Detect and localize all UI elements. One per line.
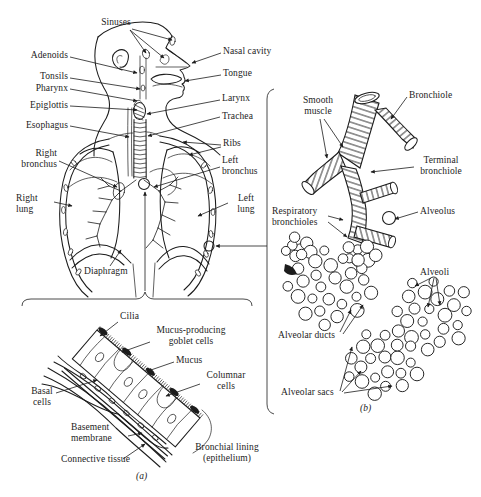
label-esophagus: Esophagus xyxy=(14,120,68,131)
label-basal-cells: Basal cells xyxy=(26,386,58,407)
label-alveolar-sacs: Alveolar sacs xyxy=(281,387,334,398)
label-nasal-cavity: Nasal cavity xyxy=(223,46,271,57)
label-basement-membrane: Basement membrane xyxy=(71,422,131,443)
lungs xyxy=(80,147,200,258)
label-left-lung: Left lung xyxy=(229,193,263,214)
rib-sections xyxy=(62,159,216,277)
label-pharynx: Pharynx xyxy=(18,83,68,94)
label-right-bronchus: Right bronchus xyxy=(11,148,57,169)
label-epiglottis: Epiglottis xyxy=(14,100,68,111)
tongue-shape xyxy=(151,74,181,83)
panel-a-tag: (a) xyxy=(136,471,147,482)
label-diaphragm: Diaphragm xyxy=(84,266,128,277)
leader-smooth-muscle-1 xyxy=(320,119,327,158)
leader-alveolar-sacs-1 xyxy=(340,347,352,391)
brace-panel-a xyxy=(22,292,252,306)
alveoli-clusters xyxy=(281,232,471,400)
sinus-spots xyxy=(141,36,175,64)
leader-tongue xyxy=(185,75,221,81)
leader-diaphragm xyxy=(110,250,121,266)
label-tongue: Tongue xyxy=(223,68,252,79)
figure-canvas: Sinuses Adenoids Tonsils Pharynx Epiglot… xyxy=(0,0,481,497)
trachea-rings xyxy=(134,123,146,178)
pharynx-structures xyxy=(134,56,182,105)
label-cilia: Cilia xyxy=(120,311,139,322)
leader-esophagus xyxy=(70,126,129,137)
label-right-lung: Right lung xyxy=(16,193,52,214)
label-goblet-cells: Mucus-producing goblet cells xyxy=(151,325,231,346)
label-adenoids: Adenoids xyxy=(18,50,68,61)
leader-epiglottis xyxy=(70,106,137,110)
leader-smooth-muscle-2 xyxy=(324,119,343,147)
bronchial-trees xyxy=(86,169,181,248)
leader-right-bronchus xyxy=(59,161,117,187)
head-profile xyxy=(94,22,220,156)
label-mucus: Mucus xyxy=(176,355,202,366)
larynx-trachea xyxy=(128,103,146,179)
leader-right-lung xyxy=(54,202,72,206)
leader-respiratory-2 xyxy=(328,222,347,237)
bronchial-lining-drawing xyxy=(42,326,211,467)
respiratory-system-drawing xyxy=(60,22,220,297)
label-sinuses: Sinuses xyxy=(96,17,136,28)
leader-mucus xyxy=(148,362,174,371)
label-smooth-muscle: Smooth muscle xyxy=(296,95,340,116)
panel-b-tag: (b) xyxy=(360,403,371,414)
alveolus-bulge xyxy=(383,212,396,225)
label-alveolus: Alveolus xyxy=(420,206,455,217)
label-respiratory-bronchioles: Respiratory bronchioles xyxy=(272,206,328,227)
label-tonsils: Tonsils xyxy=(18,71,68,82)
leader-goblet xyxy=(122,342,150,352)
leader-bronchiole xyxy=(391,97,407,119)
leader-ribs-1 xyxy=(183,142,221,145)
leader-sinuses-3 xyxy=(132,29,172,40)
leader-sinuses-2 xyxy=(130,30,164,58)
label-connective-tissue: Connective tissue xyxy=(61,454,130,465)
label-alveoli: Alveoli xyxy=(420,267,449,278)
label-trachea: Trachea xyxy=(222,111,253,122)
bracket-panel-b xyxy=(267,89,274,414)
leader-adenoids xyxy=(70,57,137,73)
label-left-bronchus: Left bronchus xyxy=(222,155,268,176)
leader-respiratory-1 xyxy=(328,216,343,220)
leader-pharynx xyxy=(70,89,137,101)
leader-trachea xyxy=(148,117,220,136)
label-bronchial-lining: Bronchial lining (epithelium) xyxy=(188,442,266,463)
leader-alveolus xyxy=(395,212,418,219)
label-bronchiole: Bronchiole xyxy=(409,90,452,101)
leader-tonsils xyxy=(70,78,140,89)
label-larynx: Larynx xyxy=(222,93,250,104)
leader-left-bronchus xyxy=(154,167,220,187)
label-alveolar-ducts: Alveolar ducts xyxy=(278,330,335,341)
leader-terminal-bronchiole xyxy=(371,167,414,172)
leader-larynx xyxy=(147,100,220,114)
bronchiole-tree-drawing xyxy=(281,90,471,400)
leader-nasal-cavity xyxy=(192,53,221,63)
label-columnar-cells: Columnar cells xyxy=(202,370,250,391)
label-terminal-bronchiole: Terminal bronchiole xyxy=(415,155,467,176)
ear xyxy=(113,50,129,70)
label-ribs: Ribs xyxy=(223,138,241,149)
